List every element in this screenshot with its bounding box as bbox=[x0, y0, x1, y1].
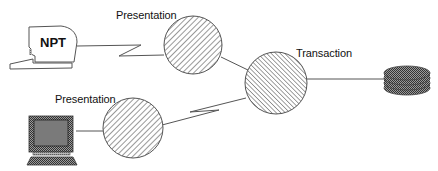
npt-link-lightning bbox=[77, 45, 164, 56]
database-icon bbox=[384, 66, 430, 95]
presentation-top-circle bbox=[164, 16, 222, 74]
npt-label: NPT bbox=[40, 36, 66, 50]
presentation-top-transaction-link bbox=[221, 57, 250, 71]
transaction-label: Transaction bbox=[296, 47, 352, 59]
transaction-circle bbox=[245, 52, 307, 114]
personal-computer-icon bbox=[27, 116, 77, 165]
presentation-bottom-label: Presentation bbox=[55, 93, 116, 105]
diagram-canvas bbox=[0, 0, 438, 171]
presentation-bottom-circle bbox=[103, 98, 163, 158]
presentation-bottom-transaction-lightning bbox=[162, 98, 246, 125]
presentation-top-label: Presentation bbox=[116, 9, 177, 21]
